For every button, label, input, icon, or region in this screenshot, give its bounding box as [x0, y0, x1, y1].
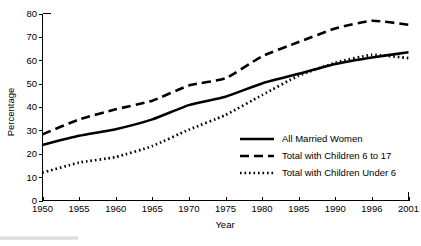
y-axis-title: Percentage: [5, 88, 16, 137]
x-tick-label: 1996: [361, 203, 382, 214]
x-axis-tick-marks: [44, 197, 410, 201]
series-line-dashed: [43, 21, 409, 135]
x-tick-label: 1970: [178, 203, 199, 214]
legend-label: Total with Children 6 to 17: [282, 150, 391, 161]
x-tick-label: 1950: [32, 203, 53, 214]
legend-label: Total with Children Under 6: [282, 167, 396, 178]
y-tick-label: 30: [26, 125, 37, 136]
x-axis-tick-labels: 1950195519601965197019751980198519901996…: [32, 203, 419, 214]
x-tick-label: 1960: [105, 203, 126, 214]
x-axis-title: Year: [215, 219, 234, 230]
line-chart: Percentage 01020304050607080 19501955196…: [0, 0, 421, 246]
y-tick-label: 10: [26, 172, 37, 183]
chart-figure: Percentage 01020304050607080 19501955196…: [0, 0, 421, 246]
x-tick-label: 1980: [252, 203, 273, 214]
x-tick-label: 1975: [215, 203, 236, 214]
x-tick-label: 1985: [288, 203, 309, 214]
chart-legend: All Married WomenTotal with Children 6 t…: [240, 133, 396, 178]
y-axis-tick-labels: 01020304050607080: [26, 8, 37, 206]
y-tick-label: 50: [26, 78, 37, 89]
y-tick-label: 20: [26, 148, 37, 159]
x-tick-label: 1965: [142, 203, 163, 214]
x-tick-label: 1955: [69, 203, 90, 214]
y-tick-label: 80: [26, 8, 37, 19]
x-tick-label: 2001: [398, 203, 419, 214]
y-axis-tick-marks: [39, 15, 43, 202]
y-tick-label: 40: [26, 101, 37, 112]
series-line-solid: [43, 52, 409, 145]
page-edge-artifact: [0, 236, 78, 240]
legend-label: All Married Women: [282, 133, 363, 144]
y-tick-label: 60: [26, 55, 37, 66]
x-tick-label: 1990: [325, 203, 346, 214]
y-tick-label: 70: [26, 31, 37, 42]
